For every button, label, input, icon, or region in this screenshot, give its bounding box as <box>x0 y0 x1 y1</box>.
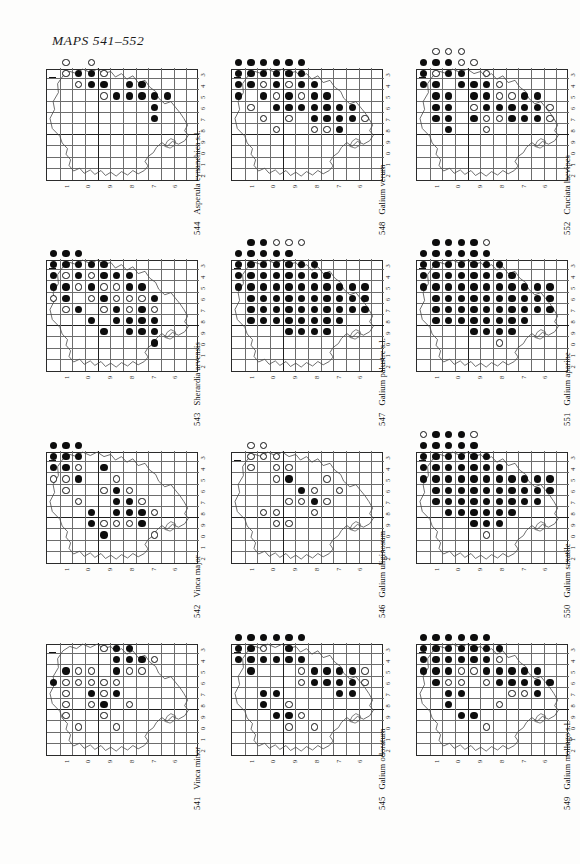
axis-tick-label-horizontal: 3 <box>570 73 576 76</box>
record-dot-filled <box>235 634 242 641</box>
record-dot-filled <box>311 283 318 290</box>
record-dot-filled <box>534 283 541 290</box>
record-dot-filled <box>247 667 254 674</box>
record-dot-filled <box>508 667 515 674</box>
axis-tick-label-horizontal: 4 <box>200 276 206 279</box>
axis-tick-label-vertical: 6 <box>357 376 363 379</box>
axis-tick-label-vertical: 7 <box>336 376 342 379</box>
record-dot-filled <box>458 487 465 494</box>
record-dot-filled <box>349 104 356 111</box>
record-dot-filled <box>470 283 477 290</box>
record-dot-open <box>126 306 133 313</box>
record-dot-filled <box>260 59 267 66</box>
axis-tick-label-vertical: 9 <box>292 185 298 188</box>
axis-tick-label-horizontal: 7 <box>200 118 206 121</box>
record-dot-filled <box>298 59 305 66</box>
species-name: Galium aparine <box>562 352 572 405</box>
record-dot-filled <box>285 317 292 324</box>
record-dot-filled <box>138 317 145 324</box>
record-dot-open <box>470 667 477 674</box>
map-rotated-canvas: 1098762109876543 <box>231 452 383 564</box>
axis-tick-label-horizontal: 3 <box>570 456 576 459</box>
record-dot-filled <box>311 92 318 99</box>
record-dot-filled <box>323 283 330 290</box>
axis-tick-label-vertical: 8 <box>499 568 505 571</box>
record-dot-filled <box>273 104 280 111</box>
axis-tick-label-horizontal: 5 <box>200 671 206 674</box>
record-dot-filled <box>458 442 465 449</box>
axis-tick-label-vertical: 9 <box>107 760 113 763</box>
record-dot-open <box>100 690 107 697</box>
axis-tick-label-horizontal: 9 <box>385 524 391 527</box>
axis-tick-label-horizontal: 8 <box>570 704 576 707</box>
record-dot-filled <box>496 306 503 313</box>
record-dot-filled <box>470 509 477 516</box>
record-dot-open <box>88 667 95 674</box>
record-dot-filled <box>432 475 439 482</box>
record-dot-filled <box>361 283 368 290</box>
record-dot-filled <box>138 306 145 313</box>
axis-tick-label-vertical: 1 <box>249 568 255 571</box>
record-dot-filled <box>138 92 145 99</box>
axis-tick-label-horizontal: 6 <box>570 490 576 493</box>
record-dot-open <box>62 475 69 482</box>
record-dot-filled <box>432 667 439 674</box>
axis-tick-label-horizontal: 7 <box>570 309 576 312</box>
axis-tick-label-horizontal: 9 <box>385 141 391 144</box>
record-dot-filled <box>508 679 515 686</box>
record-dot-filled <box>483 92 490 99</box>
axis-tick-label-horizontal: 4 <box>385 276 391 279</box>
record-dot-filled <box>496 475 503 482</box>
record-dot-open <box>483 723 490 730</box>
record-dot-filled <box>432 634 439 641</box>
record-dot-filled <box>311 295 318 302</box>
north-arrow-icon <box>419 652 426 653</box>
axis-tick-label-vertical: 7 <box>521 185 527 188</box>
record-dot-filled <box>75 442 82 449</box>
record-dot-filled <box>508 317 515 324</box>
record-dot-open <box>323 475 330 482</box>
axis-tick-label-vertical: 7 <box>336 568 342 571</box>
coastline-outline <box>47 451 199 563</box>
record-dot-filled <box>420 59 427 66</box>
record-dot-filled <box>323 306 330 313</box>
north-arrow-icon <box>49 268 56 269</box>
map-rotated-canvas: 1098762109876543 <box>416 452 568 564</box>
record-dot-filled <box>349 667 356 674</box>
record-dot-filled <box>470 442 477 449</box>
record-dot-filled <box>508 306 515 313</box>
record-dot-filled <box>534 104 541 111</box>
record-dot-filled <box>521 283 528 290</box>
distribution-map-547: 1098762109876543547Galium palustre s.l. <box>231 248 411 438</box>
north-arrow-icon <box>49 652 56 653</box>
record-dot-open <box>62 690 69 697</box>
record-dot-filled <box>470 498 477 505</box>
record-dot-filled <box>432 250 439 257</box>
record-dot-filled <box>285 59 292 66</box>
record-dot-filled <box>546 487 553 494</box>
record-dot-filled <box>432 645 439 652</box>
record-dot-filled <box>420 283 427 290</box>
record-dot-open <box>100 283 107 290</box>
axis-tick-label-vertical: 9 <box>107 185 113 188</box>
record-dot-open <box>273 475 280 482</box>
record-dot-open <box>458 59 465 66</box>
record-dot-filled <box>100 295 107 302</box>
species-name: Vinca major <box>192 555 202 597</box>
coastline-outline <box>232 451 384 563</box>
record-dot-filled <box>432 261 439 268</box>
record-dot-filled <box>75 475 82 482</box>
axis-tick-label-horizontal: 5 <box>200 96 206 99</box>
axis-tick-label-vertical: 8 <box>314 376 320 379</box>
record-dot-filled <box>285 475 292 482</box>
axis-tick-label-horizontal: 4 <box>570 85 576 88</box>
axis-tick-label-vertical: 7 <box>336 185 342 188</box>
north-arrow-icon <box>419 77 426 78</box>
map-grid <box>416 69 568 181</box>
axis-tick-label-vertical: 1 <box>64 760 70 763</box>
axis-tick-label-horizontal: 0 <box>570 535 576 538</box>
record-dot-filled <box>50 283 57 290</box>
axis-tick-label-vertical: 9 <box>292 376 298 379</box>
record-dot-filled <box>470 250 477 257</box>
axis-tick-label-horizontal: 3 <box>200 73 206 76</box>
